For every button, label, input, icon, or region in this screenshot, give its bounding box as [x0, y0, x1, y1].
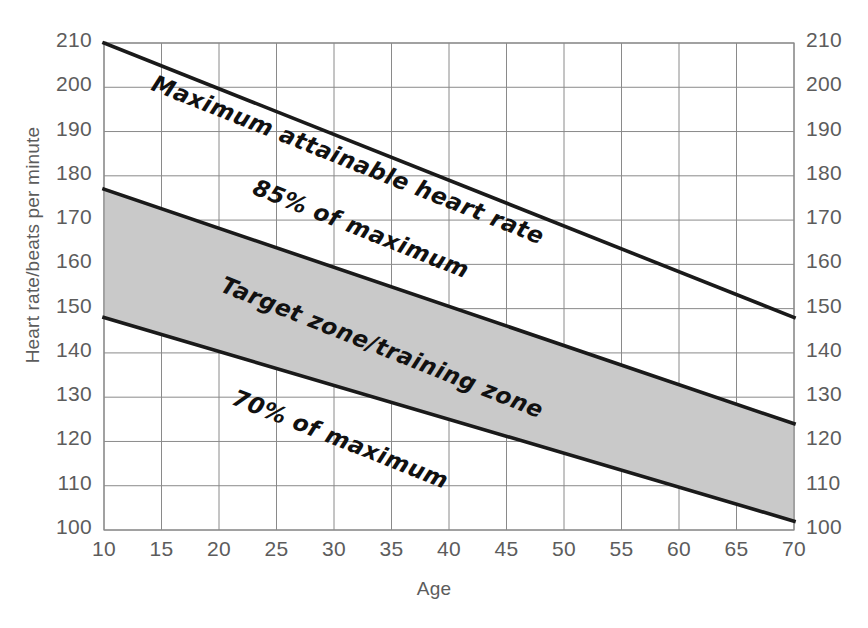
plot-area: Maximum attainable heart rate85% of maxi…	[0, 0, 868, 628]
heart-rate-target-zone-chart: Heart rate/beats per minute Age 21020019…	[0, 0, 868, 628]
